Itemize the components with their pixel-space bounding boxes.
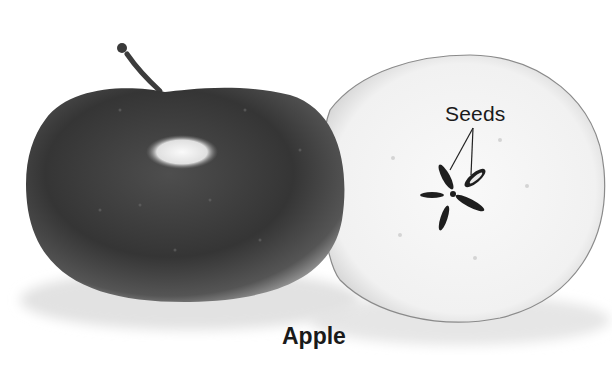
whole-apple: [26, 43, 344, 302]
apple-cross-section: [321, 55, 604, 322]
figure-caption: Apple: [282, 323, 346, 350]
apple-illustration: [0, 0, 612, 374]
apple-figure: Seeds Apple: [0, 0, 612, 374]
seeds-label: Seeds: [445, 102, 506, 126]
